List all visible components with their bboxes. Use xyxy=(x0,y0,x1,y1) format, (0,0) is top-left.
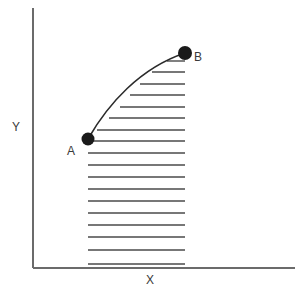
point-b-label: B xyxy=(194,51,202,63)
y-axis-label: Y xyxy=(12,121,20,133)
point-a-marker xyxy=(82,133,95,146)
x-axis-label: X xyxy=(146,274,154,286)
hatch-lines-group xyxy=(88,61,185,264)
point-a-label: A xyxy=(67,145,75,157)
axes-group xyxy=(33,8,295,268)
plot-figure: Y X A B xyxy=(0,0,301,297)
point-b-marker xyxy=(178,46,192,60)
process-curve xyxy=(88,53,185,139)
plot-canvas xyxy=(0,0,301,297)
